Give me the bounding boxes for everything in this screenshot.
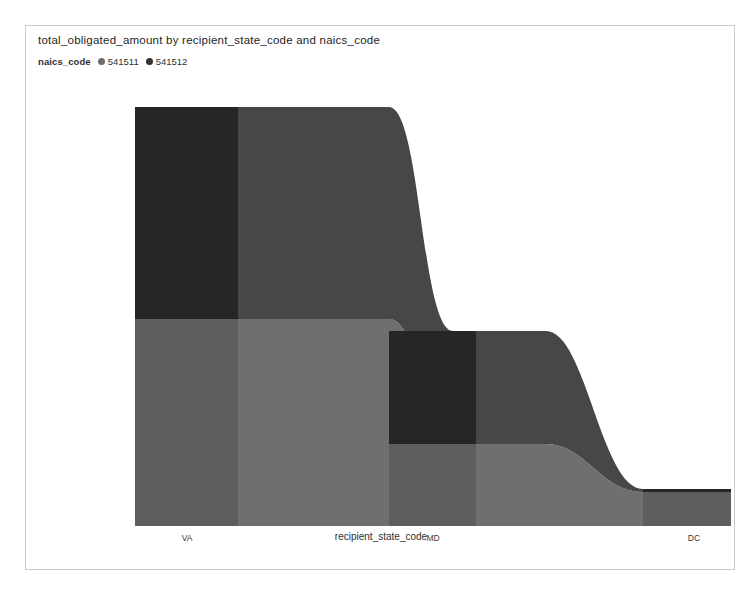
bar-541512-md[interactable]: [389, 331, 476, 444]
bar-541512-dc[interactable]: [643, 489, 731, 492]
chart-plot-svg[interactable]: VA MD DC: [26, 26, 736, 571]
plot-area: VA MD DC: [26, 26, 736, 571]
x-axis-title: recipient_state_code: [26, 531, 736, 542]
bar-541511-md[interactable]: [389, 444, 476, 526]
bar-541511-va[interactable]: [135, 319, 238, 526]
bar-541511-dc[interactable]: [643, 492, 731, 526]
chart-card: total_obligated_amount by recipient_stat…: [25, 25, 735, 570]
bar-541512-va[interactable]: [135, 107, 238, 319]
